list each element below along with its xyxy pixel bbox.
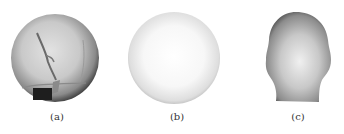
panel-b-image [128, 12, 220, 104]
panel-c-caption: (c) [278, 111, 318, 122]
figure: (a) (b) (c) [0, 0, 344, 134]
panel-b-caption: (b) [157, 111, 197, 122]
panel-a-image [11, 14, 99, 102]
panel-c-image [266, 12, 331, 102]
panel-a-caption: (a) [37, 111, 77, 122]
